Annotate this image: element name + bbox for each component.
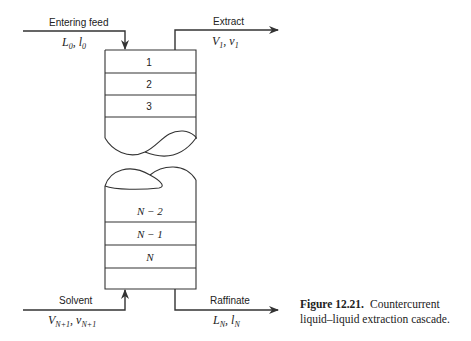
raffinate-symbol: LN, lN xyxy=(212,313,240,329)
feed-symbol: L0, l0 xyxy=(61,35,86,51)
extraction-cascade-diagram: Entering feed L0, l0 Extract V1, v1 xyxy=(0,0,471,341)
extract-symbol: V1, v1 xyxy=(212,34,239,50)
solvent-symbol: VN+1, vN+1 xyxy=(48,313,96,329)
raffinate-stream: Raffinate LN, lN xyxy=(175,289,278,329)
stage-1-label: 1 xyxy=(146,57,152,68)
stage-n-minus-2-label: N − 2 xyxy=(136,205,163,217)
solvent-label: Solvent xyxy=(59,295,93,306)
stage-3-label: 3 xyxy=(146,101,152,112)
stage-2-label: 2 xyxy=(146,79,152,90)
solvent-stream: Solvent VN+1, vN+1 xyxy=(23,290,125,329)
feed-stream: Entering feed L0, l0 xyxy=(23,17,125,51)
stage-n-minus-1-label: N − 1 xyxy=(136,228,163,240)
extract-label: Extract xyxy=(213,16,244,27)
figure-caption: Figure 12.21.Countercurrent liquid–liqui… xyxy=(300,297,470,327)
extract-stream: Extract V1, v1 xyxy=(175,16,278,50)
stage-n-label: N xyxy=(145,251,154,263)
raffinate-label: Raffinate xyxy=(210,295,250,306)
figure-label: Figure 12.21. xyxy=(300,298,364,310)
feed-label: Entering feed xyxy=(49,17,109,28)
